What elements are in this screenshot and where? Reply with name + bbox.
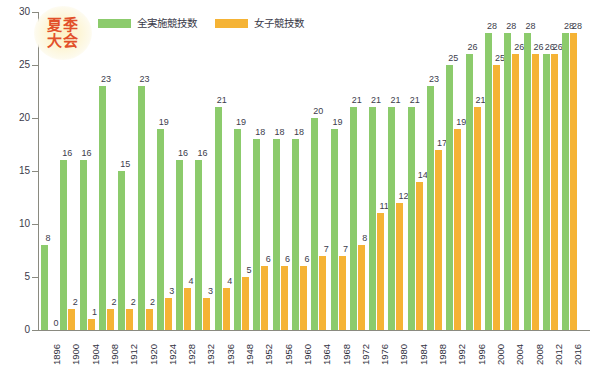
- x-tick-label: 1928: [187, 344, 197, 365]
- bar-womens-events: [184, 288, 191, 330]
- y-tick-label-wrap: 15: [0, 166, 30, 176]
- bar-group: 193: [157, 12, 173, 330]
- bar-womens-events: [474, 107, 481, 330]
- bar-womens-events: [551, 54, 558, 330]
- bar-group: 214: [215, 12, 231, 330]
- bar-value-label: 28: [569, 22, 585, 31]
- bar-womens-events: [88, 319, 95, 330]
- bar-group: 218: [350, 12, 366, 330]
- bar-value-label: 21: [407, 96, 423, 105]
- bar-group: 186: [273, 12, 289, 330]
- bar-womens-events: [203, 298, 210, 330]
- bar-group: 164: [176, 12, 192, 330]
- bar-group: 232: [138, 12, 154, 330]
- bar-total-events: [118, 171, 125, 330]
- bar-group: 2828: [562, 12, 578, 330]
- y-tick-label: 30: [4, 7, 30, 17]
- bar-group: 232: [99, 12, 115, 330]
- x-tick-label: 1932: [206, 344, 216, 365]
- bar-total-events: [60, 160, 67, 330]
- bar-value-label: 16: [175, 149, 191, 158]
- bar-total-events: [388, 107, 395, 330]
- bar-womens-events: [358, 245, 365, 330]
- bar-group: 2111: [369, 12, 385, 330]
- bar-total-events: [273, 139, 280, 330]
- bar-total-events: [80, 160, 87, 330]
- bar-value-label: 28: [503, 22, 519, 31]
- bar-value-label: 28: [484, 22, 500, 31]
- bar-womens-events: [435, 150, 442, 330]
- x-tick-label: 1976: [380, 344, 390, 365]
- y-tick-label: 0: [4, 325, 30, 335]
- x-tick-label: 1948: [245, 344, 255, 365]
- bar-womens-events: [242, 277, 249, 330]
- bar-group: 2519: [446, 12, 462, 330]
- x-tick-label: 2004: [515, 344, 525, 365]
- bar-group: 195: [234, 12, 250, 330]
- summer-games-bar-chart: 051015202530 夏季 大会 全実施競技数女子競技数 801621612…: [0, 0, 593, 368]
- bar-group: 186: [253, 12, 269, 330]
- bar-total-events: [369, 107, 376, 330]
- y-tick-label-wrap: 10: [0, 219, 30, 229]
- bar-value-label: 18: [291, 128, 307, 137]
- x-tick-label: 1936: [226, 344, 236, 365]
- bar-value-label: 19: [156, 118, 172, 127]
- bar-total-events: [466, 54, 473, 330]
- y-tick-label: 10: [4, 219, 30, 229]
- bar-womens-events: [493, 65, 500, 330]
- x-tick-label: 1924: [168, 344, 178, 365]
- bar-value-label: 26: [465, 43, 481, 52]
- y-tick-label-wrap: 5: [0, 272, 30, 282]
- x-tick-label: 1960: [303, 344, 313, 365]
- bar-value-label: 15: [117, 160, 133, 169]
- bar-womens-events: [454, 129, 461, 330]
- bar-womens-events: [107, 309, 114, 330]
- x-tick-label: 2012: [554, 344, 564, 365]
- bar-value-label: 19: [330, 118, 346, 127]
- bar-value-label: 21: [349, 96, 365, 105]
- bar-value-label: 16: [79, 149, 95, 158]
- bar-value-label: 16: [59, 149, 75, 158]
- x-tick-label: 1992: [457, 344, 467, 365]
- bar-total-events: [485, 33, 492, 330]
- bar-total-events: [176, 160, 183, 330]
- bar-group: 2621: [466, 12, 482, 330]
- bar-total-events: [504, 33, 511, 330]
- x-tick-label: 1904: [91, 344, 101, 365]
- bar-value-label: 18: [252, 128, 268, 137]
- y-tick-label-wrap: 30: [0, 7, 30, 17]
- x-tick-label: 1896: [52, 344, 62, 365]
- y-tick-label: 25: [4, 60, 30, 70]
- x-axis-labels: 1896190019041908191219201924192819321936…: [38, 331, 590, 368]
- y-tick-label: 15: [4, 166, 30, 176]
- x-tick-label: 2008: [535, 344, 545, 365]
- bar-total-events: [215, 107, 222, 330]
- bar-group: 2626: [543, 12, 559, 330]
- bar-total-events: [311, 118, 318, 330]
- bar-womens-events: [223, 288, 230, 330]
- bar-value-label: 18: [272, 128, 288, 137]
- y-tick-label-wrap: 20: [0, 113, 30, 123]
- x-tick-label: 1996: [477, 344, 487, 365]
- x-tick-label: 2016: [573, 344, 583, 365]
- bar-group: 2826: [504, 12, 520, 330]
- bar-womens-events: [377, 213, 384, 330]
- bar-womens-events: [165, 298, 172, 330]
- bar-total-events: [350, 107, 357, 330]
- bar-value-label: 25: [445, 54, 461, 63]
- bar-value-label: 21: [368, 96, 384, 105]
- bar-womens-events: [281, 266, 288, 330]
- bar-womens-events: [570, 33, 577, 330]
- x-tick-label: 1956: [284, 344, 294, 365]
- bar-group: 197: [331, 12, 347, 330]
- bar-total-events: [253, 139, 260, 330]
- bar-group: 2112: [388, 12, 404, 330]
- bar-total-events: [331, 129, 338, 330]
- bar-total-events: [427, 86, 434, 330]
- bar-total-events: [562, 33, 569, 330]
- y-tick-label: 20: [4, 113, 30, 123]
- x-tick-label: 2000: [496, 344, 506, 365]
- bar-total-events: [138, 86, 145, 330]
- bar-womens-events: [68, 309, 75, 330]
- x-tick-label: 1988: [438, 344, 448, 365]
